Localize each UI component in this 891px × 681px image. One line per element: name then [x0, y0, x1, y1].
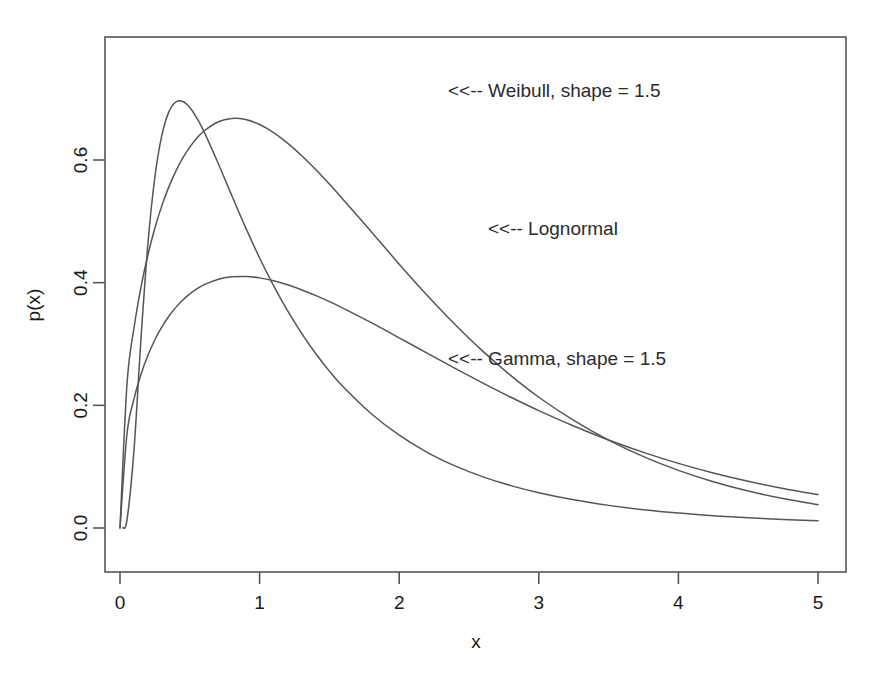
- x-tick-label: 2: [394, 592, 405, 613]
- x-tick-label: 0: [115, 592, 126, 613]
- y-tick-label: 0.4: [70, 269, 91, 296]
- y-axis-title: p(x): [23, 289, 44, 322]
- curve-gamma: [120, 276, 818, 528]
- annotation-label-3: <<-- Gamma, shape = 1.5: [448, 348, 666, 369]
- y-tick-label: 0.6: [70, 147, 91, 173]
- x-tick-label: 4: [673, 592, 684, 613]
- distribution-plot: 012345 0.00.20.40.6 <<-- Weibull, shape …: [0, 0, 891, 681]
- plot-frame: [105, 37, 846, 572]
- x-axis-title: x: [471, 631, 481, 652]
- x-axis-ticks: 012345: [115, 572, 824, 613]
- plot-box-border: [105, 37, 846, 572]
- curve-annotations: <<-- Weibull, shape = 1.5<<-- Lognormal<…: [448, 80, 666, 369]
- y-tick-label: 0.2: [70, 392, 91, 418]
- annotation-label-1: <<-- Weibull, shape = 1.5: [448, 80, 660, 101]
- x-tick-label: 3: [534, 592, 545, 613]
- chart-figure: 012345 0.00.20.40.6 <<-- Weibull, shape …: [0, 0, 891, 681]
- y-axis-ticks: 0.00.20.40.6: [70, 147, 105, 541]
- x-tick-label: 1: [254, 592, 265, 613]
- annotation-label-2: <<-- Lognormal: [488, 218, 618, 239]
- curve-lognormal: [123, 101, 818, 529]
- y-tick-label: 0.0: [70, 515, 91, 541]
- curves-group: [120, 101, 818, 529]
- x-tick-label: 5: [813, 592, 824, 613]
